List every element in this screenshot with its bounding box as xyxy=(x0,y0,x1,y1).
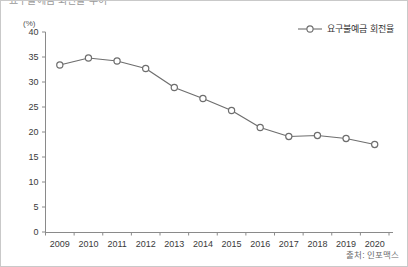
y-axis-tick-label: 30 xyxy=(28,77,38,87)
x-axis-ticks: 2009201020112012201320142015201620172018… xyxy=(46,232,390,249)
y-axis-ticks: 0510152025303540 xyxy=(28,27,45,237)
y-axis-tick-label: 25 xyxy=(28,102,38,112)
data-point-marker xyxy=(343,135,349,141)
data-point-marker xyxy=(114,58,120,64)
data-series-layer xyxy=(57,55,378,148)
data-point-marker xyxy=(286,133,292,139)
data-point-marker xyxy=(372,141,378,147)
x-axis-tick-label: 2014 xyxy=(193,239,213,249)
data-point-marker xyxy=(57,62,63,68)
x-axis-tick-label: 2010 xyxy=(78,239,98,249)
x-axis-tick-label: 2017 xyxy=(279,239,299,249)
x-axis-tick-label: 2011 xyxy=(107,239,126,249)
data-point-marker xyxy=(314,132,320,138)
data-point-marker xyxy=(257,124,263,130)
data-point-marker xyxy=(85,55,91,61)
legend-marker-icon xyxy=(297,24,323,34)
y-axis-tick-label: 40 xyxy=(28,27,38,37)
y-axis-tick-label: 5 xyxy=(33,202,38,212)
data-point-marker xyxy=(171,84,177,90)
line-chart-plot: 0510152025303540 20092010201120122013201… xyxy=(1,1,408,267)
y-axis-tick-label: 10 xyxy=(28,177,38,187)
chart-axes xyxy=(46,32,394,233)
x-axis-tick-label: 2009 xyxy=(50,239,70,249)
y-axis-tick-label: 0 xyxy=(33,227,38,237)
x-axis-tick-label: 2012 xyxy=(136,239,156,249)
x-axis-tick-label: 2013 xyxy=(164,239,184,249)
chart-figure: 요구불예금 회전율 추이 (%) 0510152025303540 200920… xyxy=(0,0,408,267)
y-axis-tick-label: 20 xyxy=(28,127,38,137)
data-point-marker xyxy=(228,107,234,113)
x-axis-tick-label: 2015 xyxy=(222,239,242,249)
data-point-marker xyxy=(200,95,206,101)
chart-legend: 요구불예금 회전율 xyxy=(297,22,394,35)
y-axis-tick-label: 15 xyxy=(28,152,38,162)
y-axis-tick-label: 35 xyxy=(28,52,38,62)
x-axis-tick-label: 2016 xyxy=(250,239,270,249)
data-point-marker xyxy=(143,65,149,71)
x-axis-tick-label: 2018 xyxy=(307,239,327,249)
legend-label: 요구불예금 회전율 xyxy=(327,22,394,35)
series-line xyxy=(60,58,375,145)
source-note: 출처: 인포맥스 xyxy=(346,248,399,260)
